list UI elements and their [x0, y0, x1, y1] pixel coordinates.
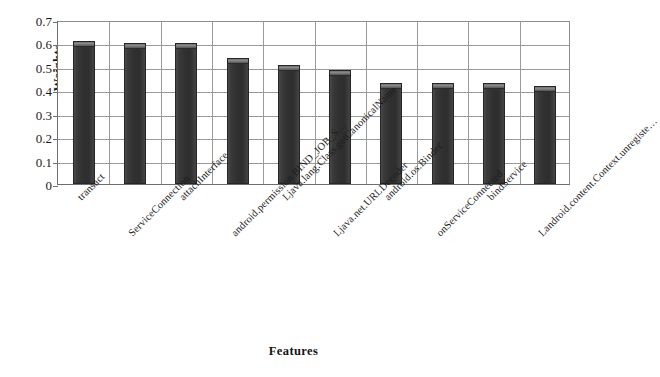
x-tick-label: android.permission.BIND_JOB_S… [229, 119, 348, 238]
x-tick-label: Ljava.net.URLDecoder [331, 160, 410, 239]
x-tick-label: ServiceConnection [126, 173, 191, 238]
x-tick-label: transact [75, 171, 106, 202]
x-tick-label: onServiceConnected [434, 168, 504, 238]
x-axis-title: Features [0, 344, 587, 359]
x-tick-label: Landroid.content.Context.unregiste… [536, 115, 659, 238]
